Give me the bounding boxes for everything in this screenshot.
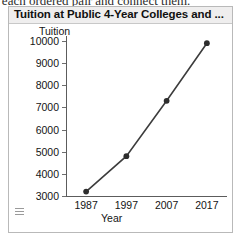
chart-title-bar: Tuition at Public 4-Year Colleges and ..… [9,7,232,24]
hamburger-bar [15,211,24,212]
chart-widget: Tuition at Public 4-Year Colleges and ..… [8,6,233,233]
series-line [86,43,207,191]
data-point[interactable] [123,153,129,159]
hamburger-icon[interactable] [15,208,24,216]
page-title: Tuition at Public 4-Year Colleges and ..… [14,8,224,20]
data-point[interactable] [83,189,89,195]
data-series [9,24,232,232]
data-point[interactable] [164,98,170,104]
hamburger-bar [15,214,24,215]
data-point[interactable] [204,40,210,46]
hamburger-bar [15,208,24,209]
plot-area: Tuition Year 100009000800070006000500040… [9,24,232,232]
